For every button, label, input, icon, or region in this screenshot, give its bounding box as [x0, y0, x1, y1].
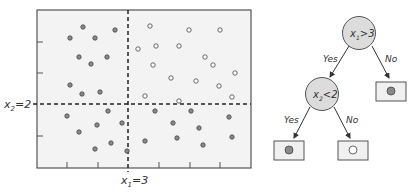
- filled-point: [113, 28, 117, 32]
- filled-point: [77, 55, 81, 59]
- filled-point: [77, 130, 81, 134]
- edge-label-root-yes: Yes: [323, 54, 338, 64]
- filled-point: [68, 83, 72, 87]
- open-point: [151, 63, 155, 67]
- open-point: [218, 28, 222, 32]
- filled-point: [201, 143, 205, 147]
- filled-point: [80, 92, 84, 96]
- x-split-label: x1=3: [120, 174, 148, 189]
- filled-point: [98, 90, 102, 94]
- edge-label-child-no: No: [346, 115, 359, 125]
- filled-point: [143, 139, 147, 143]
- filled-point: [89, 62, 93, 66]
- decision-tree: x1>3 x2<2 Yes No Yes No: [274, 17, 406, 161]
- filled-point: [105, 55, 109, 59]
- leaf-yes-yes-marker: [285, 146, 293, 154]
- leaf-no-marker: [387, 87, 395, 95]
- decision-tree-figure: x1=3 x2=2 x1>3 x2<2 Yes No Yes No: [0, 0, 420, 193]
- filled-point: [153, 109, 157, 113]
- filled-point: [230, 135, 234, 139]
- open-point: [177, 44, 181, 48]
- open-point: [143, 94, 147, 98]
- open-point: [217, 84, 221, 88]
- filled-point: [175, 136, 179, 140]
- edge-label-root-no: No: [385, 54, 398, 64]
- open-point: [230, 95, 234, 99]
- filled-point: [68, 36, 72, 40]
- filled-point: [120, 121, 124, 125]
- filled-point: [95, 123, 99, 127]
- open-point: [187, 28, 191, 32]
- open-point: [136, 47, 140, 51]
- y-split-label: x2=2: [3, 98, 31, 113]
- open-point: [194, 79, 198, 83]
- filled-point: [197, 126, 201, 130]
- open-point: [177, 99, 181, 103]
- filled-point: [81, 25, 85, 29]
- filled-point: [109, 141, 113, 145]
- scatter-plot: x1=3 x2=2: [3, 10, 251, 189]
- filled-point: [106, 109, 110, 113]
- open-point: [211, 63, 215, 67]
- open-point: [203, 55, 207, 59]
- plot-frame: [37, 10, 251, 168]
- open-point: [169, 76, 173, 80]
- edge-label-child-yes: Yes: [284, 115, 299, 125]
- open-point: [148, 24, 152, 28]
- filled-point: [93, 147, 97, 151]
- open-point: [154, 44, 158, 48]
- filled-point: [227, 115, 231, 119]
- leaf-yes-no-marker: [349, 146, 357, 154]
- filled-point: [65, 114, 69, 118]
- filled-point: [171, 121, 175, 125]
- filled-point: [189, 109, 193, 113]
- open-point: [233, 71, 237, 75]
- filled-point: [125, 149, 129, 153]
- filled-point: [93, 36, 97, 40]
